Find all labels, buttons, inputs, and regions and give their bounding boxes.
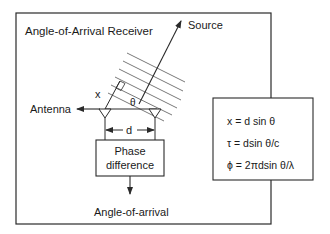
phase-label-line1: Phase <box>96 145 164 157</box>
antenna-label: Antenna <box>30 103 71 115</box>
theta-label: θ <box>130 97 136 109</box>
diagram-title: Angle-of-Arrival Receiver <box>25 25 153 37</box>
left-antenna-icon <box>99 109 111 118</box>
angle-of-arrival-label: Angle-of-arrival <box>94 206 169 218</box>
formula-tau: τ = dsin θ/c <box>227 137 279 149</box>
phase-label-line2: difference <box>96 159 164 171</box>
right-antenna-icon <box>149 109 161 118</box>
formula-phi: ϕ = 2πdsin θ/λ <box>227 159 294 171</box>
formula-x: x = d sin θ <box>227 115 275 127</box>
wavefronts <box>108 53 185 121</box>
d-label: d <box>126 124 132 136</box>
right-angle-marker <box>116 81 125 91</box>
source-label: Source <box>188 19 223 31</box>
x-label: x <box>95 88 101 100</box>
